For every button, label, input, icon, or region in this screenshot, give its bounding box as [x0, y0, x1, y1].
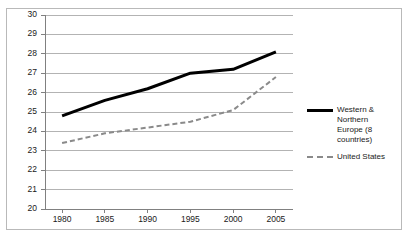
- series-line-europe: [62, 52, 276, 116]
- y-tick-label-24: 24: [11, 126, 37, 135]
- y-tick-label-28: 28: [11, 49, 37, 58]
- x-tick-label-1985: 1985: [85, 215, 125, 224]
- data-series-group: [62, 52, 276, 143]
- chart-title-artifact: [150, 0, 164, 4]
- x-tick-label-2005: 2005: [256, 215, 296, 224]
- y-tick-label-25: 25: [11, 107, 37, 116]
- y-tick-label-21: 21: [11, 185, 37, 194]
- x-tick-marks-group: [62, 209, 276, 213]
- y-tick-label-23: 23: [11, 146, 37, 155]
- legend-item-united-states[interactable]: United States: [307, 152, 407, 162]
- x-tick-label-1990: 1990: [128, 215, 168, 224]
- chart-frame: 3029282726252423222120 19801985199019952…: [6, 8, 402, 230]
- solid-line-swatch: [307, 109, 333, 116]
- x-tick-label-2000: 2000: [213, 215, 253, 224]
- legend-item-europe-label-line2: Europe (8 countries): [337, 125, 372, 144]
- legend-item-europe-label-line1: Western & Northern: [337, 105, 374, 124]
- y-tick-label-22: 22: [11, 165, 37, 174]
- legend-item-united-states-label: United States: [337, 152, 407, 162]
- x-tick-label-1980: 1980: [42, 215, 82, 224]
- y-tick-label-29: 29: [11, 29, 37, 38]
- series-line-united-states: [62, 77, 276, 143]
- x-tick-label-1995: 1995: [170, 215, 210, 224]
- y-tick-label-27: 27: [11, 68, 37, 77]
- legend-item-europe-label: Western & NorthernEurope (8 countries): [337, 105, 407, 145]
- y-tick-marks-group: [41, 15, 45, 209]
- chart-legend: Western & NorthernEurope (8 countries) U…: [307, 105, 407, 169]
- y-tick-label-30: 30: [11, 10, 37, 19]
- y-tick-label-26: 26: [11, 88, 37, 97]
- dashed-line-swatch: [307, 156, 333, 162]
- gridlines-group: [45, 15, 293, 209]
- chart-figure: 3029282726252423222120 19801985199019952…: [0, 0, 410, 245]
- legend-item-europe[interactable]: Western & NorthernEurope (8 countries): [307, 105, 407, 145]
- y-tick-label-20: 20: [11, 204, 37, 213]
